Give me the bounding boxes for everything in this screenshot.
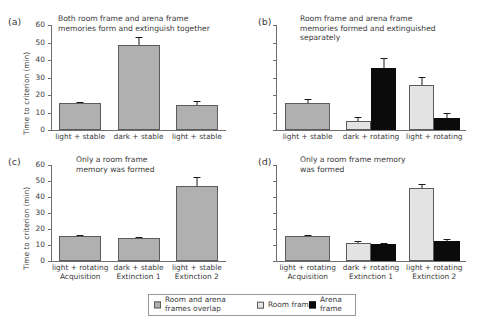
bar-room-frame — [346, 121, 371, 130]
error-bar — [118, 237, 160, 238]
y-tick — [48, 165, 51, 166]
y-tick — [48, 229, 51, 230]
bar-overlap — [59, 103, 101, 130]
y-tick — [48, 25, 51, 26]
panel-a-plot: 0102030405060 — [51, 25, 226, 130]
y-tick — [273, 95, 276, 96]
y-tick — [273, 165, 276, 166]
y-tick — [48, 130, 51, 131]
legend-label: Room frame — [268, 301, 313, 310]
legend-label: Room and arena frames overlap — [165, 296, 226, 313]
error-bar — [285, 235, 331, 236]
legend-item: Arena frame — [309, 296, 355, 313]
room-frame-swatch-icon — [257, 302, 264, 309]
error-bar — [118, 37, 160, 45]
error-bar — [176, 101, 218, 105]
panel-d-plot — [276, 165, 466, 261]
arena-frame-swatch-icon — [309, 302, 316, 309]
panel-a-letter: (a) — [8, 16, 21, 27]
y-tick-label: 30 — [23, 73, 45, 82]
x-axis-label: light + stable Extinction 2 — [161, 263, 233, 282]
y-tick-label: 20 — [23, 224, 45, 233]
panel-a: (a) Both room frame and arena frame memo… — [0, 10, 239, 155]
y-tick — [48, 261, 51, 262]
error-bar — [371, 243, 396, 244]
error-bar — [371, 58, 396, 68]
x-axis-line — [276, 130, 466, 131]
error-bar — [346, 241, 371, 242]
panel-d-letter: (d) — [258, 156, 271, 167]
y-tick — [48, 60, 51, 61]
legend: Room and arena frames overlapRoom frameA… — [148, 294, 356, 316]
y-tick-label: 40 — [23, 55, 45, 64]
error-bar — [285, 99, 331, 103]
bar-overlap — [118, 45, 160, 130]
x-axis-line — [51, 261, 226, 262]
y-tick — [273, 78, 276, 79]
error-bar — [434, 113, 459, 118]
x-axis-label: light + stable — [161, 132, 233, 141]
legend-label: Arena frame — [320, 296, 355, 313]
bar-arena-frame — [434, 118, 459, 130]
y-tick — [273, 113, 276, 114]
panel-c-plot: 0102030405060 — [51, 165, 226, 261]
error-bar — [409, 184, 434, 188]
bar-arena-frame — [434, 241, 459, 261]
bar-overlap — [176, 186, 218, 261]
bar-room-frame — [409, 85, 434, 130]
legend-item: Room frame — [257, 301, 313, 310]
y-tick — [273, 261, 276, 262]
y-tick — [48, 95, 51, 96]
bar-room-frame — [346, 243, 371, 261]
y-tick-label: 40 — [23, 192, 45, 201]
bar-overlap — [118, 238, 160, 261]
y-tick-label: 0 — [23, 256, 45, 265]
figure-root: (a) Both room frame and arena frame memo… — [0, 0, 479, 328]
x-axis-line — [51, 130, 226, 131]
legend-item: Room and arena frames overlap — [154, 296, 226, 313]
y-tick — [48, 197, 51, 198]
y-axis-line — [276, 165, 277, 261]
panel-c-letter: (c) — [8, 156, 21, 167]
y-tick — [273, 181, 276, 182]
panel-d: (d) Only a room frame memory was formed … — [240, 152, 479, 292]
y-tick-label: 60 — [23, 160, 45, 169]
panel-b: (b) Room frame and arena frame memories … — [240, 10, 479, 155]
error-bar — [409, 77, 434, 85]
y-tick-label: 10 — [23, 108, 45, 117]
bar-overlap — [285, 236, 331, 261]
error-bar — [346, 117, 371, 121]
y-tick — [273, 229, 276, 230]
y-tick — [48, 78, 51, 79]
y-tick — [273, 130, 276, 131]
y-tick-label: 0 — [23, 125, 45, 134]
bar-overlap — [59, 236, 101, 261]
y-tick — [273, 60, 276, 61]
y-axis-line — [51, 165, 52, 261]
y-tick — [48, 113, 51, 114]
y-tick — [273, 245, 276, 246]
y-tick — [273, 197, 276, 198]
bar-arena-frame — [371, 68, 396, 130]
y-tick — [48, 181, 51, 182]
overlap-swatch-icon — [154, 302, 161, 309]
y-tick — [273, 25, 276, 26]
y-tick — [48, 245, 51, 246]
bar-arena-frame — [371, 244, 396, 261]
bar-overlap — [285, 103, 331, 130]
x-axis-line — [276, 261, 466, 262]
bar-overlap — [176, 105, 218, 130]
panel-b-plot — [276, 25, 466, 130]
y-tick-label: 20 — [23, 90, 45, 99]
error-bar — [434, 239, 459, 241]
y-tick — [48, 43, 51, 44]
panel-b-letter: (b) — [258, 16, 271, 27]
y-tick-label: 60 — [23, 20, 45, 29]
y-tick-label: 10 — [23, 240, 45, 249]
bar-room-frame — [409, 188, 434, 261]
y-tick-label: 50 — [23, 38, 45, 47]
error-bar — [59, 102, 101, 103]
y-tick-label: 30 — [23, 208, 45, 217]
y-tick — [273, 43, 276, 44]
error-bar — [59, 235, 101, 236]
